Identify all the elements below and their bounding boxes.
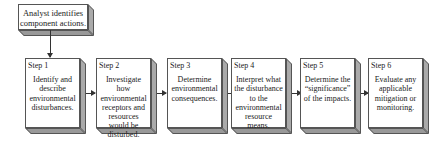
start-box-face: Analyst identifies component actions. <box>18 4 88 30</box>
box-side <box>423 58 429 134</box>
box-bottom <box>368 128 429 134</box>
box-bottom <box>300 128 361 134</box>
box-bottom <box>25 128 86 134</box>
step-1-label: Step 1 <box>28 61 77 70</box>
box-bottom <box>167 128 228 134</box>
step-5-text: Determine the “significance” of the impa… <box>303 75 352 103</box>
step-3-face: Step 3 Determine environmental consequen… <box>167 58 222 128</box>
step-6-label: Step 6 <box>371 61 420 70</box>
start-text: Analyst identifies component actions. <box>20 8 86 28</box>
arrow-step1-to-step2 <box>86 93 95 94</box>
start-box: Analyst identifies component actions. <box>18 4 94 36</box>
step-3-label: Step 3 <box>170 61 219 70</box>
box-side <box>286 58 292 134</box>
box-side <box>151 58 157 134</box>
step-5-label: Step 5 <box>303 61 352 70</box>
arrow-step5-to-step6 <box>361 93 368 94</box>
step-1-text: Identify and describe environmental dist… <box>28 75 77 112</box>
box-side <box>355 58 361 134</box>
box-side <box>80 58 86 134</box>
step-4-text: Interpret what the disturbance to the en… <box>234 75 283 130</box>
step-4-label: Step 4 <box>234 61 283 70</box>
step-2-label: Step 2 <box>99 61 148 70</box>
box-side <box>222 58 228 134</box>
step-3-text: Determine environmental consequences. <box>170 75 219 103</box>
arrow-start-to-step1 <box>50 30 51 57</box>
box-bottom <box>18 30 94 36</box>
step-2-face: Step 2 Investigate how environmental rec… <box>96 58 151 128</box>
step-6-text: Evaluate any applicable mitigation or mo… <box>371 75 420 112</box>
step-6-face: Step 6 Evaluate any applicable mitigatio… <box>368 58 423 128</box>
step-5-face: Step 5 Determine the “significance” of t… <box>300 58 355 128</box>
step-4-face: Step 4 Interpret what the disturbance to… <box>231 58 286 128</box>
step-2-text: Investigate how environmental receptors … <box>99 75 148 139</box>
step-1-face: Step 1 Identify and describe environment… <box>25 58 80 128</box>
arrow-step2-to-step3 <box>157 93 166 94</box>
